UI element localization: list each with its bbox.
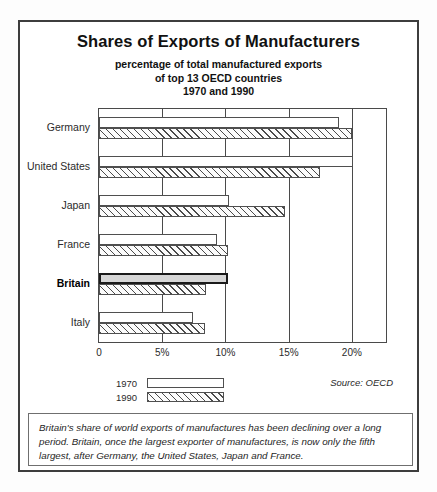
- chart-page: Shares of Exports of Manufacturers perce…: [0, 0, 437, 492]
- bar-1970-germany: [99, 117, 339, 128]
- bar-1970-united-states: [99, 156, 353, 167]
- y-axis-label-france: France: [57, 239, 90, 250]
- chart-legend: 1970 1990: [116, 376, 224, 404]
- bar-1970-japan: [99, 195, 229, 206]
- bar-1970-britain: [99, 273, 228, 284]
- chart-annotation: Britain's share of world exports of manu…: [28, 413, 413, 466]
- y-axis-label-britain: Britain: [57, 278, 90, 289]
- chart-panel: Shares of Exports of Manufacturers perce…: [18, 20, 419, 472]
- legend-label-1990: 1990: [116, 392, 147, 403]
- y-axis-label-germany: Germany: [47, 122, 90, 133]
- x-tick-label: 15%: [279, 347, 299, 358]
- bar-1990-japan: [99, 206, 285, 217]
- x-tick-label: 20%: [342, 347, 362, 358]
- x-tick-label: 5%: [155, 347, 169, 358]
- plot-area-wrapper: 05%10%15%20%GermanyUnited StatesJapanFra…: [20, 22, 421, 474]
- chart-row: Japan: [99, 187, 386, 226]
- plot-area: 05%10%15%20%GermanyUnited StatesJapanFra…: [98, 108, 387, 343]
- legend-swatch-1970: [147, 378, 224, 388]
- legend-label-1970: 1970: [116, 378, 147, 389]
- legend-swatch-1990: [147, 392, 224, 402]
- y-axis-label-japan: Japan: [61, 200, 90, 211]
- bar-1990-germany: [99, 128, 352, 139]
- x-tick-label: 0: [96, 347, 102, 358]
- chart-row: France: [99, 226, 386, 265]
- legend-item-1970: 1970: [116, 376, 224, 390]
- chart-row: Germany: [99, 109, 386, 148]
- legend-item-1990: 1990: [116, 390, 224, 404]
- y-axis-label-united-states: United States: [27, 161, 90, 172]
- bar-1990-united-states: [99, 167, 320, 178]
- chart-row: Italy: [99, 303, 386, 342]
- chart-row: United States: [99, 148, 386, 187]
- bar-1970-italy: [99, 312, 193, 323]
- chart-row: Britain: [99, 264, 386, 303]
- bar-1990-britain: [99, 284, 206, 295]
- bar-1990-italy: [99, 323, 205, 334]
- y-axis-label-italy: Italy: [71, 317, 90, 328]
- x-tick-label: 10%: [215, 347, 235, 358]
- bar-1970-france: [99, 234, 217, 245]
- source-note: Source: OECD: [330, 377, 393, 388]
- bar-1990-france: [99, 245, 228, 256]
